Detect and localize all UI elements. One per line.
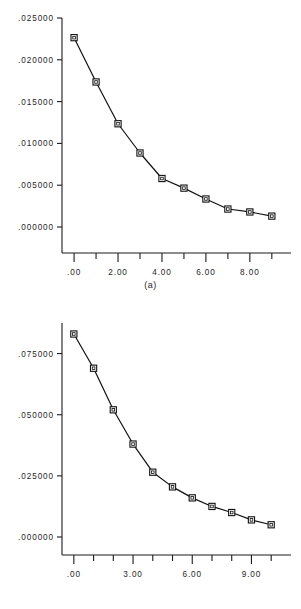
y-axis-tick-label: .000000 [18,223,54,232]
x-axis-tick-label: 2.00 [108,268,128,277]
x-axis-tick-label: 6.00 [182,570,202,579]
y-axis-tick-label: .050000 [18,411,54,420]
data-point-marker [209,503,215,509]
line-chart-b: .075000.050000.025000.000000.003.006.009… [0,300,301,609]
data-point-marker [169,484,175,490]
panel-caption-a: (a) [0,280,301,290]
y-axis-tick-label: .000000 [18,533,54,542]
data-point-marker [181,185,187,191]
x-axis-tick-label: .00 [67,268,81,277]
y-axis-tick-label: .075000 [18,350,54,359]
y-axis-tick-label: .005000 [18,181,54,190]
x-axis-tick-label: 6.00 [196,268,216,277]
data-point-marker [248,517,254,523]
data-point-marker [71,331,77,337]
y-axis-tick-label: .020000 [18,56,54,65]
data-point-marker [269,213,275,219]
data-point-marker [115,121,121,127]
data-point-marker [93,79,99,85]
data-point-marker [110,407,116,413]
data-point-marker [189,495,195,501]
chart-panel-a: .025000.020000.015000.010000.005000.0000… [0,0,301,300]
data-series-line [74,38,272,216]
x-axis-tick-label: 3.00 [123,570,143,579]
data-point-marker [150,469,156,475]
y-axis-tick-label: .015000 [18,98,54,107]
y-axis-tick-label: .025000 [18,14,54,23]
data-point-marker [229,509,235,515]
data-point-marker [71,35,77,41]
y-axis-tick-label: .025000 [18,472,54,481]
data-point-marker [90,365,96,371]
chart-panel-b: .075000.050000.025000.000000.003.006.009… [0,300,301,609]
data-point-marker [130,441,136,447]
x-axis-tick-label: .00 [67,570,81,579]
data-point-marker [203,196,209,202]
data-point-marker [159,175,165,181]
data-point-marker [225,206,231,212]
data-point-marker [137,150,143,156]
y-axis-tick-label: .010000 [18,139,54,148]
x-axis-tick-label: 4.00 [152,268,172,277]
data-series-line [74,334,271,525]
x-axis-tick-label: 9.00 [242,570,262,579]
line-chart-a: .025000.020000.015000.010000.005000.0000… [0,0,301,300]
data-point-marker [247,209,253,215]
data-point-marker [268,522,274,528]
x-axis-tick-label: 8.00 [240,268,260,277]
